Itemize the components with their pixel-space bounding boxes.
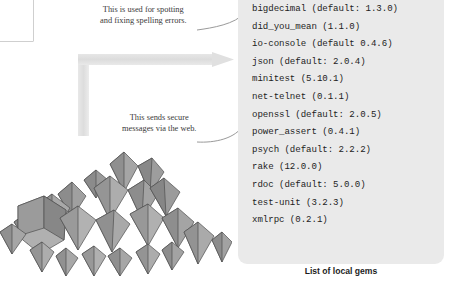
- callout-secure: This sends secure messages via the web.: [122, 112, 196, 134]
- pile-of-gems-illustration: [0, 136, 232, 284]
- callout-spelling-line1: This is used for spotting: [100, 4, 187, 15]
- callout-secure-line2: messages via the web.: [122, 123, 196, 134]
- gem-list-item: test-unit (3.2.3): [252, 198, 444, 216]
- gem-list-item: minitest (5.10.1): [252, 74, 444, 92]
- panel-caption: List of local gems: [238, 266, 444, 276]
- gem-list-item: bigdecimal (default: 1.3.0): [252, 4, 444, 22]
- gem-list-item: json (default: 2.0.4): [252, 57, 444, 75]
- figure-page: ful This is used for spotting and fixing…: [0, 0, 450, 284]
- gem-list-item: did_you_mean (1.1.0): [252, 22, 444, 40]
- gem-list-item: xmlrpc (0.2.1): [252, 215, 444, 233]
- callout-secure-line1: This sends secure: [122, 112, 196, 123]
- gem-list-panel: bigdecimal (default: 1.3.0) did_you_mean…: [238, 0, 444, 264]
- callout-spelling-line2: and fixing spelling errors.: [100, 15, 187, 26]
- gem-list-item: net-telnet (0.1.1): [252, 92, 444, 110]
- callout-spelling: This is used for spotting and fixing spe…: [100, 4, 187, 26]
- clipped-figure-box: ful: [0, 0, 34, 42]
- gem-list-item: io-console (default 0.4.6): [252, 39, 444, 57]
- gem-list-item: rake (12.0.0): [252, 162, 444, 180]
- gem-list-item: psych (default: 2.2.2): [252, 145, 444, 163]
- gem-list-item: rdoc (default: 5.0.0): [252, 180, 444, 198]
- gem-list-item: power_assert (0.4.1): [252, 127, 444, 145]
- gem-list-item: openssl (default: 2.0.5): [252, 110, 444, 128]
